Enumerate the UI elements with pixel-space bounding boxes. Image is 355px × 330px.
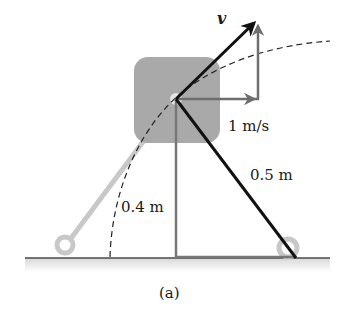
figure-caption: (a) bbox=[159, 284, 180, 302]
ghost-pin-left bbox=[57, 237, 73, 253]
speed-label: 1 m/s bbox=[228, 117, 269, 135]
rod-length-label: 0.5 m bbox=[250, 166, 293, 184]
ground-shading bbox=[25, 258, 330, 272]
physics-diagram: v 1 m/s 0.5 m 0.4 m (a) bbox=[0, 0, 355, 330]
velocity-label: v bbox=[217, 9, 227, 28]
height-label: 0.4 m bbox=[121, 198, 164, 216]
